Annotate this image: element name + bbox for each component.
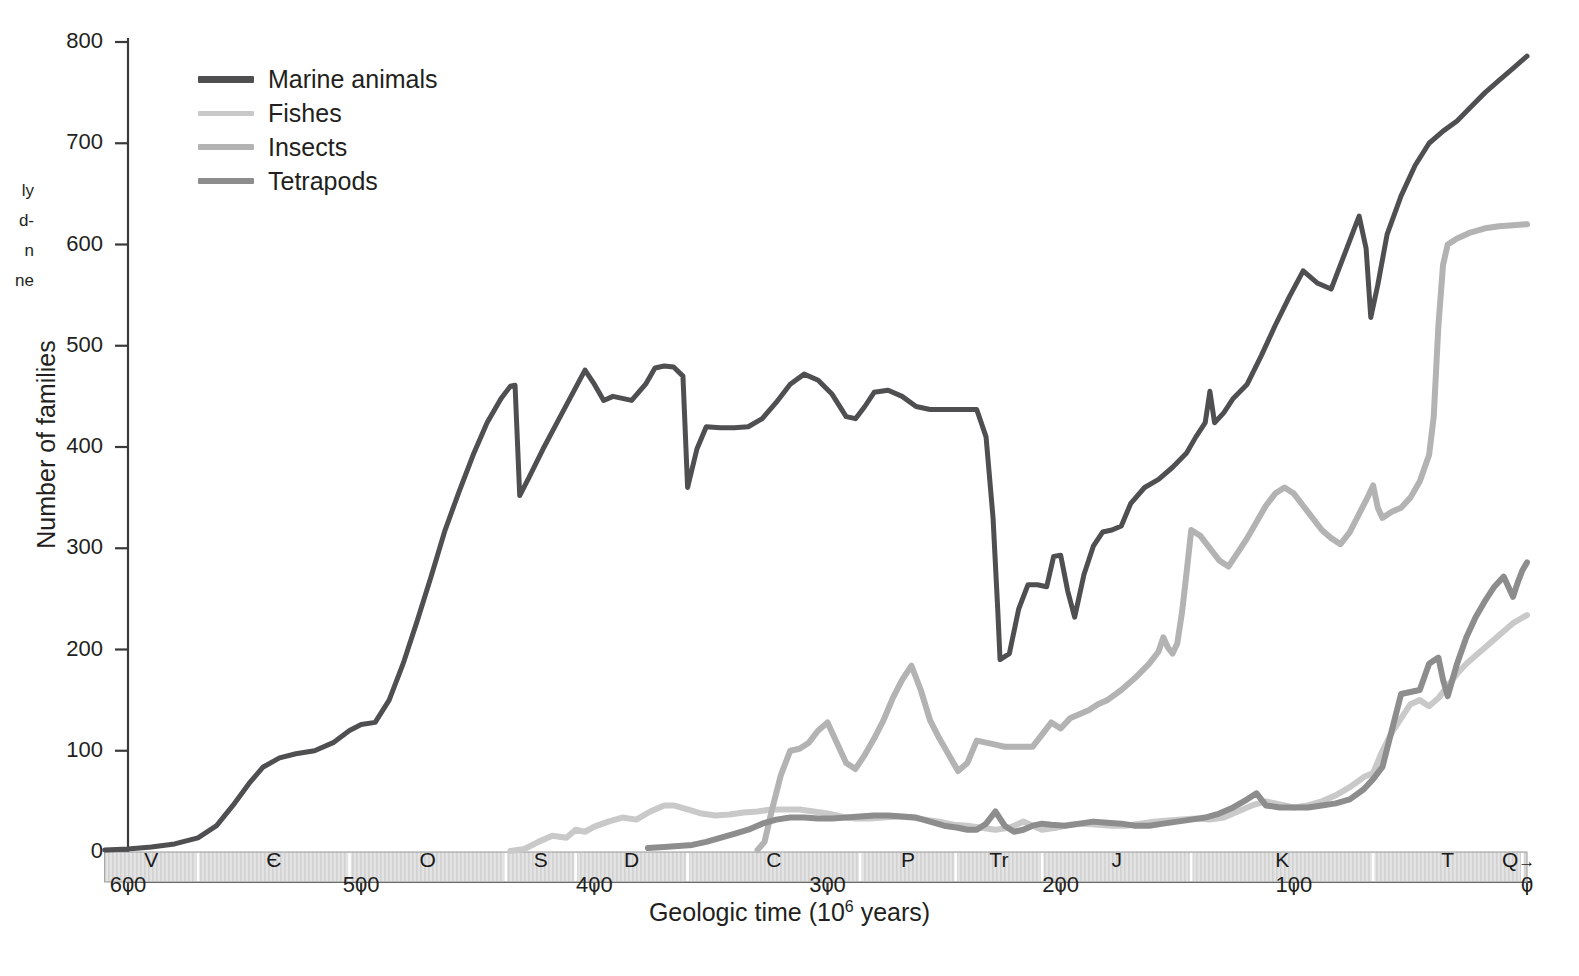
period-label-quaternary: Q→ [1502, 848, 1535, 872]
y-tick-label: 300 [43, 534, 103, 560]
period-label-vendian: V [144, 848, 158, 872]
period-label-tertiary: T [1441, 848, 1454, 872]
x-tick-label: 100 [1259, 872, 1329, 898]
y-tick-label: 800 [43, 28, 103, 54]
period-label-carboniferous: C [766, 848, 781, 872]
x-tick-label: 300 [793, 872, 863, 898]
legend-swatch-insects [198, 144, 254, 150]
legend-swatch-fishes [198, 111, 254, 116]
legend-swatch-marine-animals [198, 76, 254, 83]
legend-item-fishes: Fishes [198, 96, 438, 130]
legend-label-marine-animals: Marine animals [268, 67, 438, 92]
legend-item-marine-animals: Marine animals [198, 62, 438, 96]
x-tick-label: 200 [1026, 872, 1096, 898]
y-tick-label: 500 [43, 332, 103, 358]
series-line-tetrapods [648, 562, 1527, 848]
y-tick-label: 400 [43, 433, 103, 459]
period-label-permian: P [901, 848, 915, 872]
x-tick-label: 400 [559, 872, 629, 898]
x-tick-label: 600 [93, 872, 163, 898]
period-label-silurian: S [534, 848, 548, 872]
period-label-jurassic: J [1111, 848, 1122, 872]
legend-swatch-tetrapods [198, 178, 254, 184]
period-label-ordovician: O [419, 848, 435, 872]
legend-item-tetrapods: Tetrapods [198, 164, 438, 198]
legend-item-insects: Insects [198, 130, 438, 164]
y-tick-label: 700 [43, 129, 103, 155]
x-tick-label: 0 [1492, 872, 1562, 898]
period-label-cretaceous: K [1275, 848, 1289, 872]
series-line-insects [758, 224, 1527, 850]
x-tick-label: 500 [326, 872, 396, 898]
chart-legend: Marine animals Fishes Insects Tetrapods [198, 62, 438, 198]
legend-label-fishes: Fishes [268, 101, 342, 126]
period-label-cambrian: Є [266, 848, 281, 872]
period-label-devonian: D [624, 848, 639, 872]
legend-label-insects: Insects [268, 135, 347, 160]
figure-root: ly d- n ne Number of families Geologic t… [0, 0, 1579, 976]
period-label-triassic: Tr [989, 848, 1008, 872]
y-tick-label: 100 [43, 737, 103, 763]
y-tick-label: 0 [43, 838, 103, 864]
y-tick-label: 200 [43, 636, 103, 662]
legend-label-tetrapods: Tetrapods [268, 169, 378, 194]
y-tick-label: 600 [43, 231, 103, 257]
series-line-fishes [510, 615, 1527, 851]
